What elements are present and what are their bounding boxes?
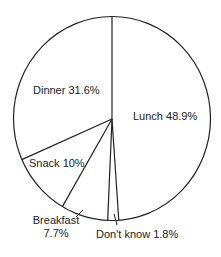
label-dont-know: Don't know 1.8%: [96, 228, 178, 241]
label-breakfast: Breakfast 7.7%: [30, 214, 82, 240]
label-breakfast-value: 7.7%: [30, 227, 82, 240]
label-snack: Snack 10%: [29, 157, 85, 170]
label-breakfast-name: Breakfast: [30, 214, 82, 227]
label-lunch: Lunch 48.9%: [133, 110, 197, 123]
label-dinner: Dinner 31.6%: [33, 84, 100, 97]
